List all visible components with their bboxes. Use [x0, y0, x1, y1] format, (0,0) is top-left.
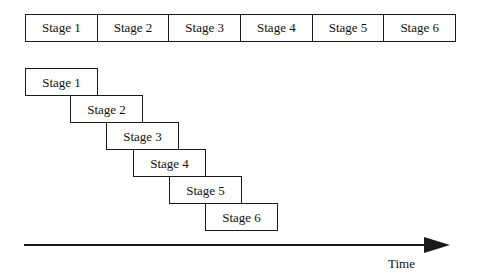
time-axis-line	[24, 244, 442, 246]
time-axis-label: Time	[388, 256, 415, 272]
sequential-stage-cell-6: Stage 6	[384, 15, 455, 41]
staircase-stage-box-4: Stage 4	[133, 149, 206, 177]
sequential-stage-cell-4: Stage 4	[241, 15, 313, 41]
sequential-stage-cell-1: Stage 1	[26, 15, 98, 41]
time-axis-arrowhead-icon	[424, 237, 450, 253]
staircase-stage-box-5: Stage 5	[169, 176, 242, 204]
sequential-stage-row: Stage 1 Stage 2 Stage 3 Stage 4 Stage 5 …	[25, 14, 456, 42]
staircase-stage-box-2: Stage 2	[70, 95, 143, 123]
sequential-stage-cell-2: Stage 2	[98, 15, 170, 41]
sequential-stage-cell-3: Stage 3	[169, 15, 241, 41]
diagram-canvas: Stage 1 Stage 2 Stage 3 Stage 4 Stage 5 …	[0, 0, 478, 279]
staircase-stage-box-3: Stage 3	[106, 122, 179, 150]
staircase-stage-box-6: Stage 6	[205, 203, 278, 231]
staircase-stage-box-1: Stage 1	[25, 68, 98, 96]
sequential-stage-cell-5: Stage 5	[313, 15, 385, 41]
